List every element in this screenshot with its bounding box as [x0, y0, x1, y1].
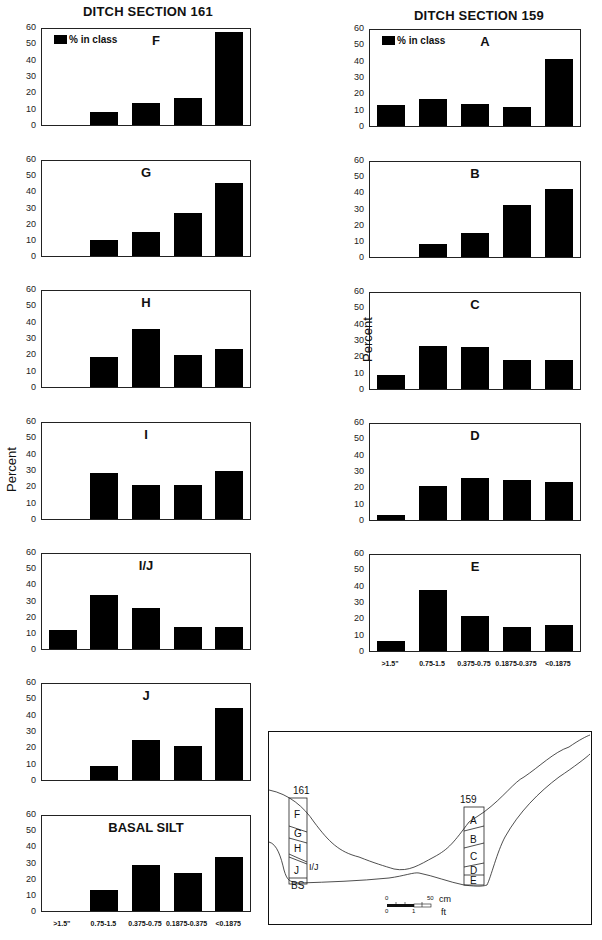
y-tick-label: 0	[14, 251, 36, 261]
legend-swatch-icon	[382, 36, 395, 45]
scale-ft-zero: 0	[385, 908, 388, 914]
bar	[419, 346, 447, 389]
bar	[90, 766, 118, 780]
bar	[215, 471, 243, 519]
y-tick-label: 10	[342, 105, 364, 115]
y-tick-label: 60	[14, 809, 36, 819]
y-tick-label: 40	[14, 710, 36, 720]
bar	[503, 107, 531, 126]
bar	[49, 630, 77, 649]
y-tick-label: 10	[342, 236, 364, 246]
bar	[90, 473, 118, 519]
y-tick-label: 0	[14, 644, 36, 654]
bar	[174, 355, 202, 387]
bar	[503, 205, 531, 257]
bar	[419, 486, 447, 520]
legend-swatch-icon	[54, 35, 67, 44]
y-tick-label: 60	[342, 417, 364, 427]
y-tick-label: 30	[14, 333, 36, 343]
y-tick-label: 50	[14, 825, 36, 835]
chart-title: I/J	[42, 558, 250, 573]
y-tick-label: 50	[14, 170, 36, 180]
bar	[419, 99, 447, 126]
bar	[461, 478, 489, 520]
layer-label-e: E	[470, 875, 477, 886]
y-tick-label: 30	[342, 72, 364, 82]
y-tick-label: 50	[14, 432, 36, 442]
bar	[90, 112, 118, 125]
bar	[174, 746, 202, 780]
y-tick-label: 0	[14, 906, 36, 916]
scale-ft-one: 1	[412, 908, 415, 914]
bar	[461, 616, 489, 651]
chart-title: C	[370, 297, 580, 312]
plot-area-b: B	[369, 161, 581, 258]
bar	[215, 857, 243, 911]
bar	[132, 232, 160, 256]
y-tick-label: 20	[14, 612, 36, 622]
y-tick-label: 10	[14, 498, 36, 508]
x-tick-label: <0.1875	[198, 920, 258, 927]
scale-ft-unit: ft	[441, 907, 446, 917]
y-tick-label: 30	[14, 203, 36, 213]
y-tick-label: 30	[342, 204, 364, 214]
y-tick-label: 10	[14, 104, 36, 114]
y-tick-label: 10	[14, 628, 36, 638]
plot-area-c: C	[369, 292, 581, 390]
y-tick-label: 50	[342, 433, 364, 443]
y-tick-label: 40	[14, 579, 36, 589]
bar	[503, 360, 531, 389]
bar	[90, 595, 118, 649]
legend: % in class	[382, 35, 445, 46]
y-tick-label: 20	[14, 874, 36, 884]
y-tick-label: 30	[14, 726, 36, 736]
bar	[503, 480, 531, 520]
plot-area-a: A% in class	[369, 29, 581, 127]
y-tick-label: 20	[14, 349, 36, 359]
chart-title: B	[370, 166, 580, 181]
scale-cm-max: 50	[427, 895, 434, 901]
layer-label-f: F	[294, 809, 300, 820]
layer-label-ij: I/J	[309, 862, 319, 872]
chart-title: BASAL SILT	[42, 820, 250, 835]
y-tick-label: 40	[14, 841, 36, 851]
y-tick-label: 20	[342, 88, 364, 98]
y-tick-label: 10	[342, 499, 364, 509]
y-tick-label: 50	[342, 564, 364, 574]
legend: % in class	[54, 34, 117, 45]
bar	[174, 485, 202, 519]
y-tick-label: 10	[14, 759, 36, 769]
y-tick-label: 10	[14, 235, 36, 245]
layer-label-h: H	[294, 843, 301, 854]
y-tick-label: 30	[14, 858, 36, 868]
layer-label-j: J	[294, 865, 299, 876]
bar	[215, 349, 243, 387]
bar	[174, 98, 202, 125]
layer-label-b: B	[470, 834, 477, 845]
y-tick-label: 50	[342, 302, 364, 312]
y-tick-label: 0	[14, 120, 36, 130]
legend-label: % in class	[397, 35, 445, 46]
y-tick-label: 50	[342, 39, 364, 49]
bar	[545, 360, 573, 389]
y-tick-label: 50	[14, 38, 36, 48]
legend-label: % in class	[69, 34, 117, 45]
bar	[215, 32, 243, 125]
y-axis-label-right: Percent	[360, 317, 375, 362]
y-tick-label: 10	[14, 366, 36, 376]
y-tick-label: 60	[14, 154, 36, 164]
chart-title: I	[42, 427, 250, 442]
plot-area-j: J	[41, 683, 251, 781]
y-tick-label: 0	[342, 515, 364, 525]
bar	[132, 485, 160, 519]
plot-area-h: H	[41, 290, 251, 388]
y-tick-label: 20	[342, 482, 364, 492]
bar	[377, 375, 405, 389]
y-tick-label: 30	[14, 596, 36, 606]
y-tick-label: 0	[342, 121, 364, 131]
bar	[174, 213, 202, 256]
y-tick-label: 50	[14, 300, 36, 310]
bar	[545, 482, 573, 520]
chart-title: H	[42, 295, 250, 310]
y-tick-label: 20	[14, 742, 36, 752]
